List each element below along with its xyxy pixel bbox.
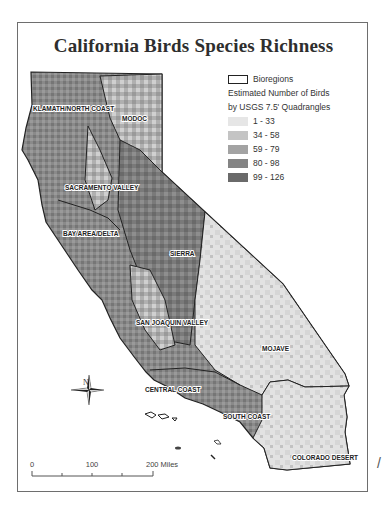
california-map: KLAMATH/NORTH COAST MODOC SACRAMENTO VAL… <box>0 0 385 509</box>
scale-bar: 0 100 200 Miles <box>30 460 178 476</box>
region-label: SIERRA <box>170 250 195 257</box>
region-label: COLORADO DESERT <box>292 454 358 461</box>
scale-tick-label: 200 Miles <box>146 460 178 469</box>
region-label: SACRAMENTO VALLEY <box>65 184 139 191</box>
scale-tick-label: 100 <box>86 460 99 469</box>
compass-star-icon <box>71 375 104 405</box>
region-label: SOUTH COAST <box>223 413 270 420</box>
region-label: MOJAVE <box>262 345 290 352</box>
scale-tick-label: 0 <box>30 460 34 469</box>
region-label: CENTRAL COAST <box>145 386 201 393</box>
page-edge-mark: / <box>377 455 383 473</box>
region-label: MODOC <box>122 115 147 122</box>
region-label: SAN JOAQUIN VALLEY <box>136 319 209 327</box>
region-label: KLAMATH/NORTH COAST <box>33 105 114 112</box>
region-label: BAY AREA/DELTA <box>63 230 119 237</box>
